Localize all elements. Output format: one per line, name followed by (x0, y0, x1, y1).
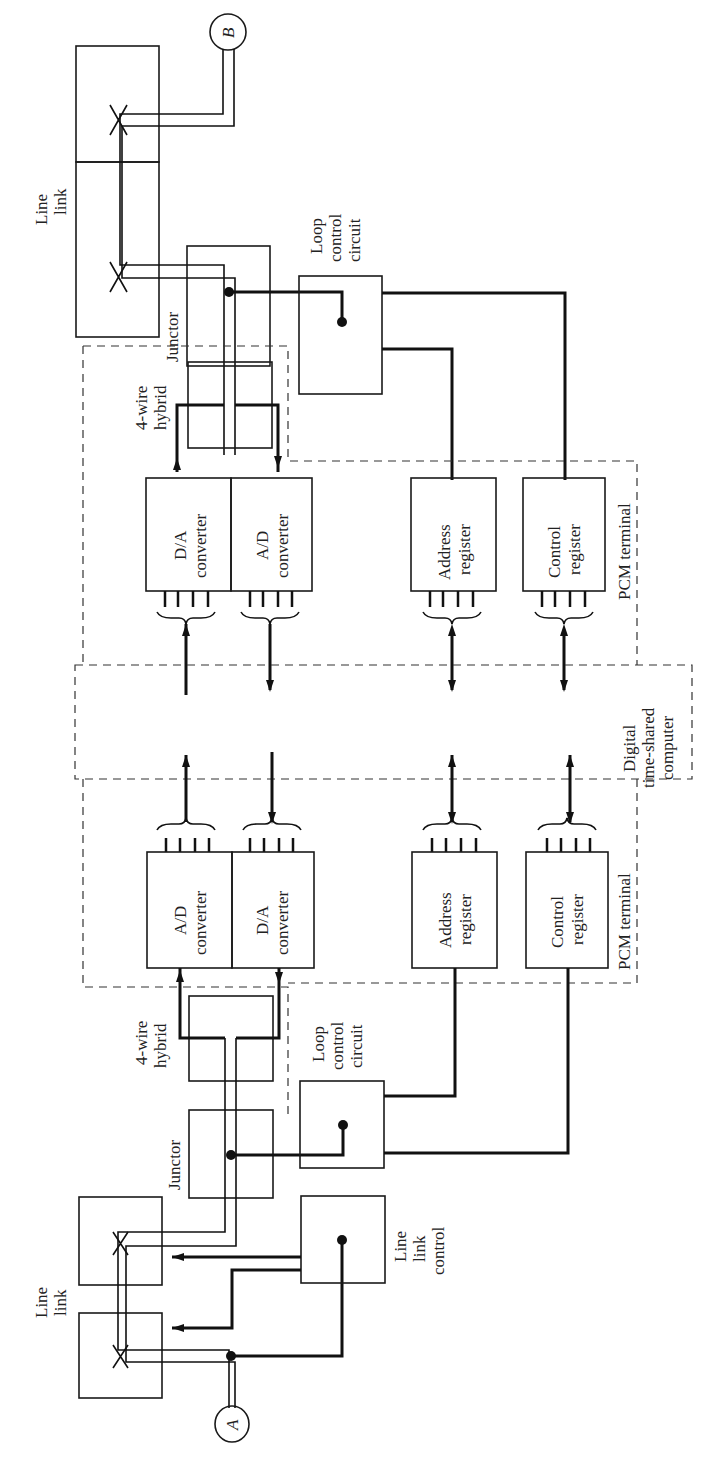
junctor-a-label: Junctor (165, 1140, 184, 1190)
ad-label-a2: converter (191, 890, 210, 955)
loop-label-a1: Loop (309, 1026, 328, 1062)
llc-label-1: Line (391, 1231, 410, 1262)
ctrl-label-b2: register (565, 524, 584, 575)
loop-label-a3: circuit (347, 1024, 366, 1068)
da-label-a2: converter (273, 890, 292, 955)
llc-label-3: control (429, 1227, 448, 1275)
da-label-b2: converter (191, 513, 210, 578)
junctor-b (187, 246, 270, 366)
addr-label-b2: register (455, 524, 474, 575)
hybrid-label-b2: hybrid (151, 385, 170, 430)
hybrid-label-a2: hybrid (151, 1023, 170, 1068)
digital-computer-box (75, 665, 692, 779)
loop-label-b1: Loop (307, 218, 326, 254)
addr-label-b1: Address (435, 524, 454, 580)
line-link-label-b2: link (51, 188, 70, 215)
ctrl-label-a2: register (568, 894, 587, 945)
computer-label-2: time-shared (639, 707, 658, 788)
da-label-a1: D/A (253, 905, 272, 935)
line-link-box-a1 (79, 1197, 162, 1285)
control-register-b (523, 478, 605, 591)
loop-label-b3: circuit (345, 218, 364, 262)
ad-label-b1: A/D (253, 531, 272, 560)
line-link-box-b2 (76, 162, 159, 337)
junctor-b-label: Junctor (163, 312, 182, 362)
computer-label-1: Digital (620, 725, 639, 772)
line-link-label-a2: link (51, 1289, 70, 1316)
addr-label-a2: register (456, 894, 475, 945)
ctrl-label-b1: Control (545, 526, 564, 578)
pcm-terminal-a-label: PCM terminal (615, 873, 634, 970)
line-link-label-a1: Line (32, 1287, 51, 1318)
line-link-box-b1 (76, 46, 159, 162)
addr-label-a1: Address (436, 892, 455, 948)
terminal-a-label: A (223, 1419, 242, 1431)
hybrid-label-a1: 4-wire (132, 1021, 151, 1065)
hybrid-label-b1: 4-wire (132, 386, 151, 430)
computer-label-3: computer (658, 715, 677, 780)
pcm-terminal-b-label: PCM terminal (615, 503, 634, 600)
ad-label-a1: A/D (171, 906, 190, 935)
pcm-switching-diagram: B Line link Junctor Loop control circuit… (0, 0, 712, 1459)
loop-label-a2: control (328, 1022, 347, 1070)
ctrl-label-a1: Control (548, 896, 567, 948)
llc-label-2: link (410, 1235, 429, 1262)
terminal-b-label: B (219, 27, 238, 38)
da-label-b1: D/A (171, 530, 190, 560)
line-link-label-b: Line (32, 194, 51, 225)
control-register-a (526, 852, 608, 968)
loop-label-b2: control (326, 214, 345, 262)
ad-label-b2: converter (273, 513, 292, 578)
